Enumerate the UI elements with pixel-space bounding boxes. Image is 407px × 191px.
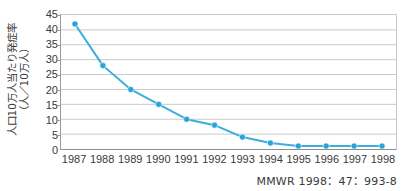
data-point (295, 143, 301, 149)
source-caption: MMWR 1998：47：993-8 (256, 172, 397, 188)
y-axis-tick-label: 35 (34, 38, 58, 50)
data-line (75, 24, 382, 146)
y-axis-tick-label: 10 (34, 114, 58, 126)
y-axis-tick-label: 45 (34, 8, 58, 20)
data-point (351, 143, 357, 149)
y-axis-tick (57, 75, 61, 76)
y-axis-tick (57, 135, 61, 136)
y-axis-tick (57, 105, 61, 106)
y-axis-label-line2: （人／10万人） (19, 43, 31, 116)
data-point (211, 122, 217, 128)
data-markers (72, 21, 385, 149)
y-axis-tick-label: 30 (34, 53, 58, 65)
y-axis-tick-label: 25 (34, 68, 58, 80)
plot-area (60, 14, 397, 150)
y-axis-tick (57, 30, 61, 31)
data-point (128, 86, 134, 92)
data-point (72, 21, 78, 27)
data-point (100, 63, 106, 69)
y-axis-label-text: 人口10万人当たり発症率 （人／10万人） (7, 23, 31, 136)
plot-svg (61, 15, 396, 149)
x-axis-tick-label: 1998 (363, 153, 403, 165)
y-axis-tick-label: 20 (34, 84, 58, 96)
y-axis-tick (57, 15, 61, 16)
y-axis-tick-label: 15 (34, 99, 58, 111)
data-point (184, 116, 190, 122)
y-axis-tick (57, 90, 61, 91)
gridlines (61, 30, 396, 134)
y-axis-label: 人口10万人当たり発症率 （人／10万人） (0, 0, 38, 160)
y-axis-tick-labels: 051015202530354045 (34, 14, 58, 150)
y-axis-tick-label: 5 (34, 129, 58, 141)
y-axis-tick-label: 40 (34, 23, 58, 35)
y-axis-tick (57, 60, 61, 61)
y-axis-tick (57, 120, 61, 121)
data-point (267, 140, 273, 146)
data-point (323, 143, 329, 149)
data-point (379, 143, 385, 149)
x-axis-tick-labels: 1987198819891990199119921993199419951996… (60, 153, 397, 169)
data-point (239, 134, 245, 140)
data-point (156, 101, 162, 107)
y-axis-tick (57, 45, 61, 46)
chart-figure: 人口10万人当たり発症率 （人／10万人） 051015202530354045… (0, 0, 407, 191)
